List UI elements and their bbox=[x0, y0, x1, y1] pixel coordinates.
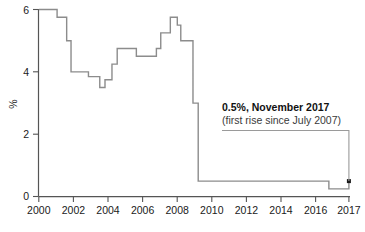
x-tick-label-2008: 2008 bbox=[166, 204, 190, 216]
annotation-callout: 0.5%, November 2017 (first rise since Ju… bbox=[222, 101, 349, 181]
series-group bbox=[39, 10, 349, 189]
rate-line bbox=[39, 10, 349, 189]
x-tick-label-2000: 2000 bbox=[27, 204, 51, 216]
y-tick-label-4: 4 bbox=[23, 66, 29, 78]
annotation-leader-line bbox=[222, 131, 349, 182]
x-tick-label-2012: 2012 bbox=[235, 204, 259, 216]
x-tick-label-2002: 2002 bbox=[62, 204, 86, 216]
x-tick-label-2006: 2006 bbox=[131, 204, 155, 216]
x-tick-label-2014: 2014 bbox=[269, 204, 293, 216]
y-tick-label-0: 0 bbox=[23, 190, 29, 202]
x-tick-label-2017: 2017 bbox=[337, 204, 361, 216]
x-tick-label-2016: 2016 bbox=[304, 204, 328, 216]
y-axis-title: % bbox=[7, 99, 19, 108]
x-tick-label-2004: 2004 bbox=[96, 204, 120, 216]
annotation-detail: (first rise since July 2007) bbox=[222, 114, 341, 126]
x-tick-label-2010: 2010 bbox=[200, 204, 224, 216]
bank-rate-chart: 6 4 2 0 % 2000 2002 2004 2006 2008 2010 … bbox=[0, 0, 365, 232]
y-axis: 6 4 2 0 % bbox=[7, 4, 39, 203]
y-tick-label-6: 6 bbox=[23, 4, 29, 16]
x-axis: 2000 2002 2004 2006 2008 2010 2012 2014 … bbox=[27, 197, 361, 216]
annotation-title: 0.5%, November 2017 bbox=[222, 101, 330, 113]
chart-canvas: 6 4 2 0 % 2000 2002 2004 2006 2008 2010 … bbox=[0, 0, 365, 232]
y-tick-label-2: 2 bbox=[23, 128, 29, 140]
